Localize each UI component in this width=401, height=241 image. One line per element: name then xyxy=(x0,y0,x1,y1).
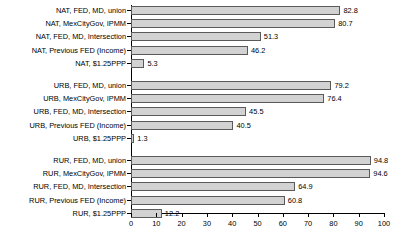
bar-value-label: 1.3 xyxy=(137,133,147,144)
bar-row: RUR, FED, MD, Intersection64.9 xyxy=(0,181,401,192)
x-axis-tick-label: 60 xyxy=(279,219,287,228)
bar-category-label: URB, FED, MD, union xyxy=(0,80,126,91)
bar-category-label: URB, Previous FED (Income) xyxy=(0,120,126,131)
bar-value-label: 94.6 xyxy=(373,168,387,179)
x-axis-tick xyxy=(333,213,334,217)
bar-category-label: RUR, FED, MD, union xyxy=(0,155,126,166)
x-axis-tick xyxy=(359,213,360,217)
bar-value-label: 79.2 xyxy=(334,80,348,91)
x-axis-tick xyxy=(308,213,309,217)
bar-value-label: 82.8 xyxy=(343,5,357,16)
x-axis-tick xyxy=(384,213,385,217)
bar-value-label: 64.9 xyxy=(298,181,312,192)
x-axis-tick xyxy=(207,213,208,217)
bar xyxy=(131,19,335,28)
bar xyxy=(131,169,370,178)
x-axis-tick-label: 30 xyxy=(203,219,211,228)
bar xyxy=(131,46,248,55)
x-axis-tick xyxy=(182,213,183,217)
bar-value-label: 46.2 xyxy=(251,45,265,56)
bar-row: RUR, $1.25PPP12.2 xyxy=(0,208,401,219)
bar-value-label: 5.3 xyxy=(147,58,157,69)
bar xyxy=(131,94,324,103)
x-axis-tick-label: 20 xyxy=(177,219,185,228)
bar-value-label: 76.4 xyxy=(327,93,341,104)
x-axis-tick-label: 70 xyxy=(304,219,312,228)
bar-row: RUR, Previous FED (Income)60.8 xyxy=(0,195,401,206)
bar-row: NAT, $1.25PPP5.3 xyxy=(0,58,401,69)
bar-row: URB, MexCityGov, IPMM76.4 xyxy=(0,93,401,104)
bar-value-label: 40.5 xyxy=(236,120,250,131)
bar-value-label: 80.7 xyxy=(338,18,352,29)
bar-row: NAT, FED, MD, union82.8 xyxy=(0,5,401,16)
bar xyxy=(131,182,295,191)
bar-category-label: RUR, Previous FED (Income) xyxy=(0,195,126,206)
x-axis-tick xyxy=(131,213,132,217)
x-axis-tick-label: 0 xyxy=(129,219,133,228)
x-axis-tick xyxy=(283,213,284,217)
x-axis-tick xyxy=(258,213,259,217)
bar-row: URB, $1.25PPP1.3 xyxy=(0,133,401,144)
bar-row: RUR, FED, MD, union94.8 xyxy=(0,155,401,166)
bar-row: NAT, FED, MD, Intersection51.3 xyxy=(0,31,401,42)
bar xyxy=(131,134,134,143)
bar-category-label: NAT, Previous FED (Income) xyxy=(0,45,126,56)
bar xyxy=(131,81,331,90)
bar-row: URB, FED, MD, Intersection45.5 xyxy=(0,106,401,117)
bar-row: NAT, Previous FED (Income)46.2 xyxy=(0,45,401,56)
bar xyxy=(131,32,261,41)
bar-row: URB, Previous FED (Income)40.5 xyxy=(0,120,401,131)
bar-value-label: 12.2 xyxy=(165,208,179,219)
x-axis-tick xyxy=(232,213,233,217)
x-axis-tick-label: 100 xyxy=(378,219,390,228)
bar-category-label: URB, $1.25PPP xyxy=(0,133,126,144)
bar-value-label: 60.8 xyxy=(288,195,302,206)
bar-row: URB, FED, MD, union79.2 xyxy=(0,80,401,91)
bar xyxy=(131,196,285,205)
bar-category-label: NAT, FED, MD, union xyxy=(0,5,126,16)
x-axis-tick-label: 90 xyxy=(355,219,363,228)
bar-category-label: URB, MexCityGov, IPMM xyxy=(0,93,126,104)
bar xyxy=(131,6,340,15)
bar xyxy=(131,156,371,165)
bar-category-label: RUR, FED, MD, Intersection xyxy=(0,181,126,192)
bar xyxy=(131,121,233,130)
x-axis-tick-label: 10 xyxy=(152,219,160,228)
x-axis-tick xyxy=(156,213,157,217)
bar-category-label: NAT, $1.25PPP xyxy=(0,58,126,69)
bar-row: NAT, MexCityGov, IPMM80.7 xyxy=(0,18,401,29)
bar-category-label: RUR, $1.25PPP xyxy=(0,208,126,219)
x-axis-tick-label: 50 xyxy=(253,219,261,228)
bar-category-label: RUR, MexCityGov, IPMM xyxy=(0,168,126,179)
bar-row: RUR, MexCityGov, IPMM94.6 xyxy=(0,168,401,179)
bar-value-label: 94.8 xyxy=(374,155,388,166)
bar-category-label: NAT, MexCityGov, IPMM xyxy=(0,18,126,29)
bar-value-label: 45.5 xyxy=(249,106,263,117)
bar-value-label: 51.3 xyxy=(264,31,278,42)
bar-category-label: NAT, FED, MD, Intersection xyxy=(0,31,126,42)
bar xyxy=(131,59,144,68)
bar-chart: NAT, FED, MD, union82.8NAT, MexCityGov, … xyxy=(0,0,401,241)
bar-category-label: URB, FED, MD, Intersection xyxy=(0,106,126,117)
x-axis-tick-label: 40 xyxy=(228,219,236,228)
x-axis-tick-label: 80 xyxy=(329,219,337,228)
bar xyxy=(131,107,246,116)
